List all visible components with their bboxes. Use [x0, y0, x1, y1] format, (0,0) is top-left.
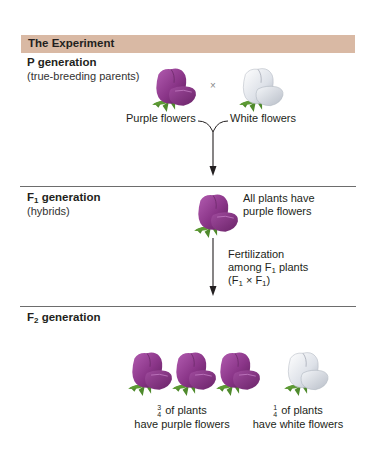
purple-flowers-label: Purple flowers: [126, 112, 196, 125]
fertilization-line1: Fertilization: [228, 248, 284, 261]
f2-white-flower-icon: [280, 350, 330, 396]
experiment-title: The Experiment: [28, 37, 114, 49]
f1-result-line2: purple flowers: [243, 205, 311, 218]
f1-generation-subtitle: (hybrids): [27, 205, 70, 217]
purple-flower-icon: [148, 66, 198, 112]
f2-purple-flower-icon-1: [124, 350, 174, 396]
f1-generation-title: F1 generation: [27, 191, 100, 203]
p-generation-title: P generation: [27, 56, 96, 68]
f1-result-line1: All plants have: [243, 192, 315, 205]
f2-purple-flower-icon-2: [168, 350, 218, 396]
p-generation-subtitle: (true-breeding parents): [27, 70, 140, 82]
divider-p-f1: [20, 186, 356, 187]
f2-purple-result: 34 of plants have purple flowers: [130, 404, 234, 431]
fertilization-arrow: [206, 238, 220, 300]
cross-symbol: ×: [210, 80, 216, 91]
f2-generation-title: F2 generation: [27, 311, 100, 323]
fraction-three-quarters: 34: [157, 404, 161, 418]
f1-purple-flower-icon: [190, 192, 240, 238]
fertilization-line3: (F1 × F1): [228, 274, 270, 287]
white-flower-icon: [235, 66, 285, 112]
experiment-header-bar: The Experiment: [21, 35, 355, 53]
f2-purple-flower-icon-3: [212, 350, 262, 396]
divider-f1-f2: [20, 306, 356, 307]
fertilization-line2: among F1 plants: [228, 261, 308, 274]
fraction-one-quarter: 14: [273, 404, 277, 418]
f2-white-result: 14 of plants have white flowers: [250, 404, 346, 431]
cross-arrow: [190, 116, 240, 182]
